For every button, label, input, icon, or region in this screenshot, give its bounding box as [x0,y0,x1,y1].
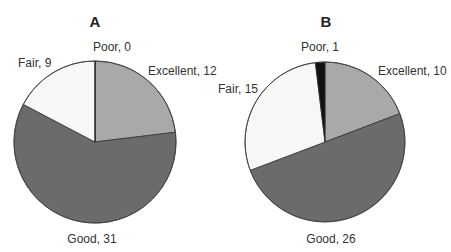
pie-chart-b: B Poor, 1 Excellent, 10 Fair, 15 Good, 2… [218,13,447,246]
label-a-excellent: Excellent, 12 [148,64,217,78]
label-b-poor: Poor, 1 [301,40,339,54]
label-b-good: Good, 26 [306,232,356,246]
label-a-fair: Fair, 9 [18,56,52,70]
label-b-excellent: Excellent, 10 [378,64,447,78]
pie-b-slices [245,62,405,222]
chart-title-b: B [321,13,332,30]
chart-title-a: A [90,13,101,30]
label-b-fair: Fair, 15 [218,82,258,96]
chart-canvas: A Poor, 0 Excellent, 12 Fair, 9 Good, 31… [0,0,451,252]
pie-a-slices [14,61,176,223]
pie-chart-a: A Poor, 0 Excellent, 12 Fair, 9 Good, 31 [14,13,217,246]
label-a-poor: Poor, 0 [93,40,131,54]
label-a-good: Good, 31 [67,232,117,246]
